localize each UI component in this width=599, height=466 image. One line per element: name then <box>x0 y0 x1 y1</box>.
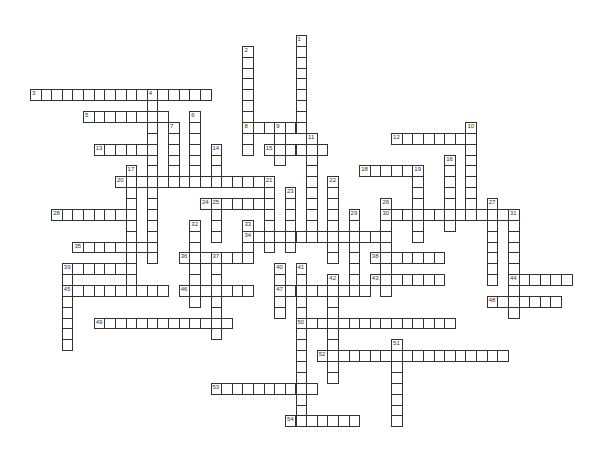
crossword-cell[interactable] <box>274 155 286 167</box>
clue-number: 43 <box>372 275 379 281</box>
crossword-cell[interactable]: 15 <box>264 144 276 156</box>
crossword-cell[interactable] <box>115 242 127 254</box>
crossword-cell[interactable] <box>115 263 127 275</box>
crossword-cell[interactable] <box>444 220 456 232</box>
crossword-cell[interactable] <box>508 307 520 319</box>
clue-number: 2 <box>244 47 247 53</box>
clue-number: 47 <box>276 286 283 292</box>
crossword-cell[interactable] <box>317 285 329 297</box>
crossword-cell[interactable] <box>455 133 467 145</box>
clue-number: 37 <box>213 253 220 259</box>
crossword-cell[interactable]: 43 <box>370 274 382 286</box>
crossword-cell[interactable] <box>285 285 297 297</box>
crossword-cell[interactable] <box>317 318 329 330</box>
crossword-cell[interactable] <box>253 231 265 243</box>
crossword-cell[interactable] <box>317 231 329 243</box>
crossword-cell[interactable] <box>338 285 350 297</box>
crossword-cell[interactable] <box>455 209 467 221</box>
crossword-cell[interactable] <box>296 144 308 156</box>
crossword-cell[interactable] <box>211 231 223 243</box>
crossword-cell[interactable] <box>434 209 446 221</box>
clue-number: 41 <box>298 264 305 270</box>
crossword-cell[interactable] <box>285 383 297 395</box>
crossword-cell[interactable]: 36 <box>179 252 191 264</box>
crossword-cell[interactable] <box>306 383 318 395</box>
crossword-cell[interactable]: 46 <box>179 285 191 297</box>
crossword-cell[interactable] <box>136 242 148 254</box>
crossword-cell[interactable] <box>179 176 191 188</box>
crossword-cell[interactable]: 54 <box>285 415 297 427</box>
crossword-cell[interactable] <box>147 252 159 264</box>
clue-number: 11 <box>308 134 314 140</box>
clue-number: 5 <box>85 112 88 118</box>
crossword-cell[interactable] <box>550 296 562 308</box>
crossword-cell[interactable] <box>296 231 308 243</box>
crossword-cell[interactable] <box>242 144 254 156</box>
crossword-cell[interactable] <box>136 144 148 156</box>
clue-number: 34 <box>244 232 251 238</box>
clue-number: 17 <box>128 166 135 172</box>
clue-number: 12 <box>393 134 400 140</box>
crossword-cell[interactable] <box>317 144 329 156</box>
clue-number: 20 <box>117 177 124 183</box>
crossword-cell[interactable] <box>189 296 201 308</box>
crossword-cell[interactable] <box>327 252 339 264</box>
crossword-cell[interactable] <box>285 242 297 254</box>
crossword-cell[interactable] <box>476 209 488 221</box>
clue-number: 1 <box>298 36 301 42</box>
crossword-cell[interactable] <box>497 296 509 308</box>
crossword-cell[interactable] <box>136 111 148 123</box>
clue-number: 10 <box>467 123 474 129</box>
clue-number: 19 <box>414 166 421 172</box>
clue-number: 23 <box>287 188 294 194</box>
crossword-cell[interactable] <box>285 122 297 134</box>
crossword-cell[interactable]: 52 <box>317 350 329 362</box>
crossword-cell[interactable] <box>221 318 233 330</box>
clue-number: 8 <box>244 123 247 129</box>
crossword-cell[interactable] <box>349 415 361 427</box>
crossword-cell[interactable] <box>370 231 382 243</box>
crossword-cell[interactable] <box>211 328 223 340</box>
crossword-cell[interactable] <box>338 231 350 243</box>
crossword-cell[interactable] <box>264 242 276 254</box>
crossword-cell[interactable] <box>434 274 446 286</box>
clue-number: 6 <box>191 112 194 118</box>
crossword-cell[interactable] <box>157 285 169 297</box>
crossword-cell[interactable] <box>62 339 74 351</box>
crossword-cell[interactable] <box>242 285 254 297</box>
crossword-cell[interactable] <box>497 350 509 362</box>
crossword-cell[interactable] <box>274 307 286 319</box>
clue-number: 52 <box>319 351 326 357</box>
crossword-cell[interactable] <box>242 252 254 264</box>
crossword-cell[interactable] <box>274 231 286 243</box>
crossword-cell[interactable] <box>380 350 392 362</box>
crossword-cell[interactable] <box>359 285 371 297</box>
crossword-cell[interactable]: 20 <box>115 176 127 188</box>
crossword-cell[interactable] <box>434 252 446 264</box>
crossword-cell[interactable] <box>115 209 127 221</box>
clue-number: 4 <box>149 90 152 96</box>
crossword-cell[interactable] <box>402 209 414 221</box>
crossword-cell[interactable] <box>380 285 392 297</box>
crossword-cell[interactable] <box>200 176 212 188</box>
crossword-cell[interactable] <box>561 274 573 286</box>
clue-number: 16 <box>446 156 453 162</box>
clue-number: 33 <box>244 221 251 227</box>
crossword-cell[interactable] <box>200 285 212 297</box>
crossword-cell[interactable] <box>444 318 456 330</box>
crossword-cell[interactable] <box>136 176 148 188</box>
crossword-cell[interactable] <box>412 231 424 243</box>
clue-number: 39 <box>64 264 71 270</box>
crossword-cell[interactable] <box>200 89 212 101</box>
crossword-cell[interactable] <box>487 274 499 286</box>
crossword-cell[interactable] <box>327 372 339 384</box>
crossword-cell[interactable] <box>200 318 212 330</box>
clue-number: 49 <box>96 319 103 325</box>
crossword-cell[interactable] <box>232 252 244 264</box>
crossword-cell[interactable] <box>253 198 265 210</box>
crossword-cell[interactable] <box>157 176 169 188</box>
clue-number: 50 <box>298 319 305 325</box>
clue-number: 27 <box>489 199 496 205</box>
crossword-cell[interactable]: 38 <box>370 252 382 264</box>
crossword-cell[interactable] <box>391 415 403 427</box>
